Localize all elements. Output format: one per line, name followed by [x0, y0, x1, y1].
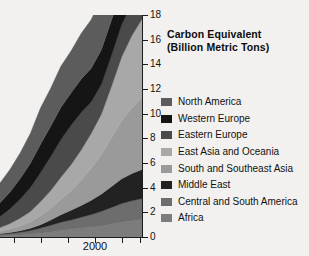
legend-item: South and Southeast Asia: [161, 160, 309, 177]
legend-item-label: Eastern Europe: [178, 130, 248, 140]
y-tick-label: 0: [150, 232, 156, 242]
x-tick-mark: [41, 238, 42, 243]
legend-color-swatch: [161, 165, 172, 173]
y-tick-label: 6: [150, 158, 156, 168]
legend-item: Eastern Europe: [161, 127, 309, 144]
x-tick-mark: [14, 238, 15, 243]
legend-item-label: South and Southeast Asia: [178, 164, 293, 174]
y-tick-mark: [143, 138, 148, 139]
legend-color-swatch: [161, 198, 172, 206]
y-tick-label: 10: [150, 109, 161, 119]
plot-area: [0, 15, 142, 237]
x-tick-label: 2000: [83, 241, 107, 252]
x-tick-mark: [140, 238, 141, 243]
chart-title: Carbon Equivalent (Billion Metric Tons): [167, 28, 305, 54]
legend-item-label: East Asia and Oceania: [178, 147, 279, 157]
y-tick-label: 2: [150, 207, 156, 217]
legend-item: Middle East: [161, 177, 309, 194]
legend-item-label: Middle East: [178, 180, 230, 190]
y-tick-label: 14: [150, 59, 161, 69]
y-axis-line: [142, 15, 143, 238]
x-tick-mark: [68, 238, 69, 243]
chart-figure: 024681012141618 2000 Carbon Equivalent (…: [0, 0, 309, 256]
stacked-area-plot: [0, 15, 142, 237]
y-tick-label: 18: [150, 10, 161, 20]
y-tick-mark: [143, 163, 148, 164]
y-tick-label: 12: [150, 84, 161, 94]
y-tick-label: 16: [150, 35, 161, 45]
legend-item: North America: [161, 94, 309, 111]
y-tick-mark: [143, 40, 148, 41]
legend-color-swatch: [161, 181, 172, 189]
legend-color-swatch: [161, 131, 172, 139]
legend-item-label: Africa: [178, 213, 204, 223]
y-tick-label: 4: [150, 183, 156, 193]
legend-item: Africa: [161, 210, 309, 227]
legend-color-swatch: [161, 98, 172, 106]
chart-title-line-1: Carbon Equivalent: [167, 28, 305, 41]
legend-color-swatch: [161, 214, 172, 222]
legend-item: East Asia and Oceania: [161, 144, 309, 161]
y-tick-mark: [143, 64, 148, 65]
legend-item: Central and South America: [161, 194, 309, 211]
chart-title-line-2: (Billion Metric Tons): [167, 41, 305, 54]
y-tick-mark: [143, 15, 148, 16]
y-tick-label: 8: [150, 133, 156, 143]
legend-color-swatch: [161, 148, 172, 156]
legend-color-swatch: [161, 115, 172, 123]
legend-item-label: Central and South America: [178, 197, 298, 207]
legend-item: Western Europe: [161, 111, 309, 128]
legend-item-label: North America: [178, 97, 241, 107]
y-tick-mark: [143, 188, 148, 189]
legend-item-label: Western Europe: [178, 114, 250, 124]
y-tick-mark: [143, 114, 148, 115]
chart-legend: North AmericaWestern EuropeEastern Europ…: [161, 94, 309, 227]
y-tick-mark: [143, 212, 148, 213]
y-tick-mark: [143, 237, 148, 238]
x-tick-mark: [122, 238, 123, 243]
y-tick-mark: [143, 89, 148, 90]
